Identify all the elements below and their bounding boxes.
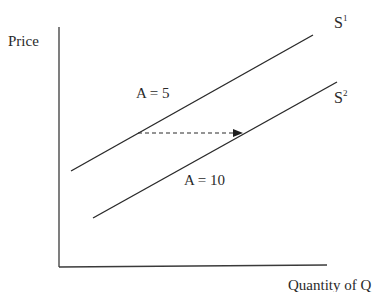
s1-name: S (334, 14, 343, 31)
s2-name: S (334, 89, 343, 106)
x-axis-label: Quantity of Q (288, 277, 371, 292)
s2-label: S2 (334, 88, 347, 106)
s1-label: S1 (334, 13, 347, 31)
s1-superscript: 1 (343, 13, 348, 23)
y-axis-label: Price (8, 33, 39, 49)
supply-curve-s2 (93, 82, 337, 218)
s1-param-label: A = 5 (136, 85, 169, 101)
supply-shift-diagram: Price Quantity of Q A = 5 A = 10 S1 S2 (0, 0, 376, 292)
x-axis (59, 265, 327, 267)
s2-param-label: A = 10 (184, 172, 225, 188)
supply-curve-s1 (71, 35, 313, 171)
s2-superscript: 2 (343, 88, 348, 98)
